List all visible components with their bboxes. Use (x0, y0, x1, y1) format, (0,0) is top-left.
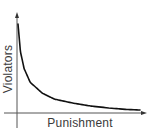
chart-canvas (0, 0, 152, 134)
x-axis-arrow-icon (141, 111, 147, 115)
chart: Violators Punishment (0, 0, 152, 134)
violators-curve (18, 24, 140, 110)
x-axis-label: Punishment (47, 116, 112, 130)
y-axis-arrow-icon (15, 12, 19, 18)
y-axis-label: Violators (1, 45, 15, 93)
